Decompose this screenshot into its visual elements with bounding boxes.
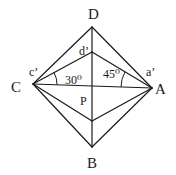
geometry-diagram: D d’ C c’ A a’ P B 30⁰ 45⁰ [0,0,176,175]
label-D: D [88,6,99,22]
label-c-prime: c’ [29,65,38,79]
label-d-prime: d’ [79,44,89,58]
label-A: A [155,81,166,97]
angle-label-45: 45⁰ [103,67,120,81]
edge-A-lower [92,88,152,121]
label-P: P [80,94,87,108]
edge-A-B [92,88,152,147]
label-B: B [87,155,97,171]
angle-arc-C [54,73,57,85]
angle-label-30: 30⁰ [65,73,82,87]
label-C: C [11,79,21,95]
label-a-prime: a’ [146,65,155,79]
angle-arc-A [121,72,125,87]
